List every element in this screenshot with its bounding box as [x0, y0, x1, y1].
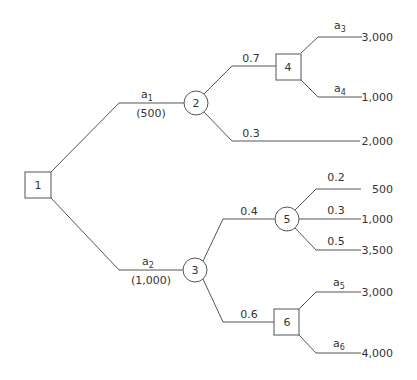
- cost-a2: (1,000): [131, 274, 171, 287]
- label-a1: a1: [141, 88, 153, 103]
- node-2: 2: [184, 91, 208, 115]
- node-label: 1: [35, 179, 42, 192]
- payoff-a6: 4,000: [362, 347, 394, 360]
- edge-node3-0.4: [203, 219, 275, 261]
- edge-a5: [299, 292, 361, 309]
- prob-0.3-node5: 0.3: [327, 204, 345, 217]
- payoff-node5-0.3: 1,000: [362, 213, 394, 226]
- edge-a3: [301, 37, 362, 53]
- payoff-node5-0.2: 500: [372, 183, 393, 196]
- edge-a6: [299, 335, 361, 353]
- node-4: 4: [276, 54, 301, 80]
- payoff-a5: 3,000: [362, 286, 394, 299]
- payoff-node5-0.5: 3,500: [362, 244, 394, 257]
- node-label: 6: [284, 316, 291, 329]
- node-label: 5: [284, 213, 291, 226]
- node-label: 4: [285, 61, 292, 74]
- edge-node3-0.6: [203, 279, 274, 322]
- node-label: 2: [193, 97, 200, 110]
- node-5: 5: [275, 207, 299, 231]
- cost-a1: (500): [136, 107, 166, 120]
- edges: [51, 37, 362, 353]
- label-a6: a6: [333, 337, 345, 352]
- prob-0.7: 0.7: [242, 52, 260, 65]
- label-a3: a3: [334, 19, 346, 34]
- payoff-a3: 3,000: [362, 31, 394, 44]
- prob-0.5: 0.5: [327, 235, 345, 248]
- node-3: 3: [183, 258, 207, 282]
- edge-a4: [301, 80, 362, 97]
- payoff-node2-0.3: 2,000: [362, 135, 394, 148]
- label-a5: a5: [333, 276, 345, 291]
- decision-tree-diagram: 1 2 3 4 5 6 a1 (500) a2 (1,000) 0.7 0.3 …: [0, 0, 417, 380]
- prob-0.3: 0.3: [242, 127, 260, 140]
- prob-0.2: 0.2: [327, 171, 345, 184]
- payoffs: 3,000 1,000 2,000 500 1,000 3,500 3,000 …: [362, 31, 394, 360]
- node-label: 3: [192, 264, 199, 277]
- edge-node2-0.7: [204, 66, 276, 94]
- edge-node2-0.3: [204, 112, 360, 141]
- prob-0.4: 0.4: [240, 205, 258, 218]
- label-a2: a2: [142, 255, 154, 270]
- payoff-a4: 1,000: [362, 91, 394, 104]
- prob-0.6: 0.6: [240, 308, 258, 321]
- node-1: 1: [25, 172, 51, 198]
- edge-labels: a1 (500) a2 (1,000) 0.7 0.3 a3 a4 0.4 0.…: [131, 19, 346, 352]
- node-6: 6: [274, 309, 299, 335]
- label-a4: a4: [334, 82, 346, 97]
- edge-a2: [51, 198, 183, 270]
